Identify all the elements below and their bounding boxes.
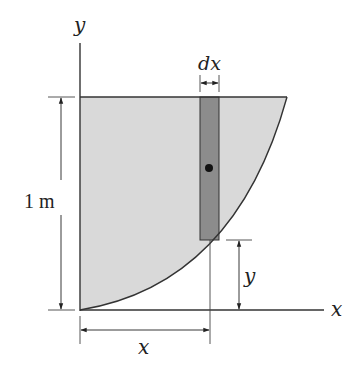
x-axis-label: x: [331, 297, 342, 321]
height-label: 1 m: [24, 190, 55, 212]
centroid-dot: [205, 164, 213, 172]
shaded-region: [80, 97, 287, 310]
y-axis-label: y: [73, 13, 86, 37]
strip-position-label: x: [138, 335, 149, 359]
strip-height-label: y: [243, 264, 256, 288]
dx-label: dx: [198, 52, 221, 74]
area-integration-diagram: y x dx 1 m y x: [0, 0, 359, 371]
